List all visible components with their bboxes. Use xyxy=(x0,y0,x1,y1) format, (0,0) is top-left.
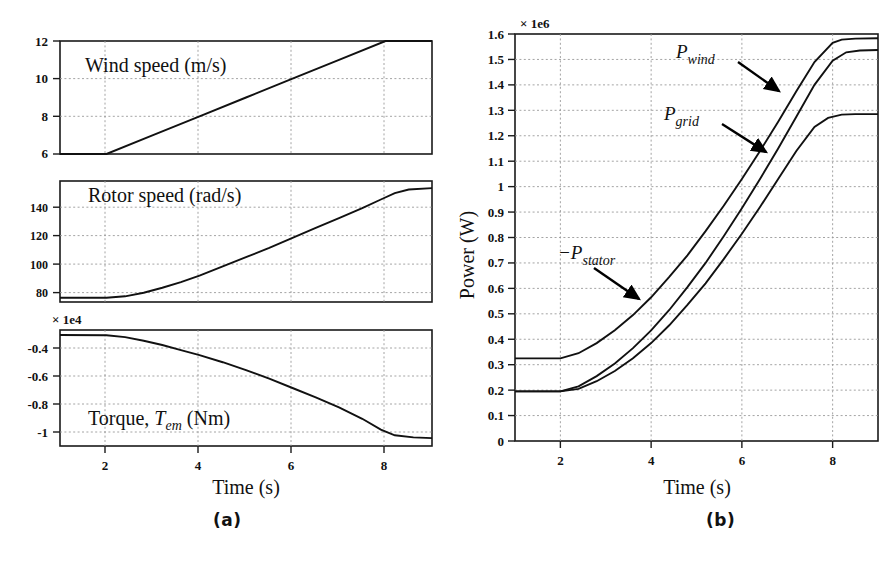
x-tick-labels: 2468 xyxy=(557,453,836,468)
subplot-wind-speed: 6 8 10 12 Wind speed (m/s) xyxy=(35,34,432,162)
subplot-rotor-speed: 80 100 120 140 Rotor speed (rad/s) xyxy=(30,181,432,302)
ytick-label: -0.4 xyxy=(27,341,48,356)
ytick-label: 1.2 xyxy=(488,128,504,143)
x-axis-title-panel-b: Time (s) xyxy=(663,476,731,499)
p-stator-subscript: stator xyxy=(582,253,615,268)
ytick-label: 0.2 xyxy=(488,383,504,398)
ytick-label: 0.5 xyxy=(488,306,505,321)
y-tick-labels: 00.10.20.30.40.50.60.70.80.911.11.21.31.… xyxy=(488,27,505,449)
inplot-label-rotor-speed: Rotor speed (rad/s) xyxy=(88,184,241,207)
p-grid-symbol: P xyxy=(663,103,676,124)
ytick-label: 0.9 xyxy=(488,205,505,220)
panel-b: × 1e6 00.10.20.30.40.50.60.70.80.911.11.… xyxy=(456,16,878,499)
xtick-label: 2 xyxy=(102,458,109,473)
exponent-label-power: × 1e6 xyxy=(520,16,550,31)
figure-canvas: 6 8 10 12 Wind speed (m/s) xyxy=(0,0,896,563)
xtick-label: 4 xyxy=(195,458,202,473)
xtick-label: 6 xyxy=(739,453,746,468)
p-stator-sign: − xyxy=(558,242,571,263)
panel-a: 6 8 10 12 Wind speed (m/s) xyxy=(27,34,432,500)
torque-label-post: (Nm) xyxy=(182,407,230,430)
p-grid-subscript: grid xyxy=(676,114,700,129)
y-ticks xyxy=(53,348,60,432)
x-axis-title-panel-a: Time (s) xyxy=(212,476,280,499)
ytick-label: 1.3 xyxy=(488,103,505,118)
ytick-label: 0.6 xyxy=(488,281,505,296)
xtick-label: 2 xyxy=(557,453,564,468)
torque-label-pre: Torque, xyxy=(88,407,154,430)
p-wind-subscript: wind xyxy=(688,52,716,67)
x-ticks xyxy=(560,441,832,448)
ytick-label: -1 xyxy=(37,425,48,440)
ytick-label: 8 xyxy=(42,109,49,124)
p-wind-symbol: P xyxy=(675,41,688,62)
torque-label-subscript: em xyxy=(165,418,181,433)
xtick-label: 8 xyxy=(829,453,836,468)
caption-panel-a: (a) xyxy=(213,510,242,530)
y-ticks xyxy=(53,41,60,154)
inplot-label-wind-speed: Wind speed (m/s) xyxy=(85,54,226,77)
xtick-label: 8 xyxy=(381,458,388,473)
y-axis-title-panel-b: Power (W) xyxy=(456,211,479,299)
ytick-label: 1.1 xyxy=(488,154,504,169)
ytick-label: 80 xyxy=(36,286,48,300)
xtick-label: 4 xyxy=(648,453,655,468)
exponent-label-torque: × 1e4 xyxy=(52,312,82,327)
ytick-label: 1.6 xyxy=(488,27,505,42)
ytick-label: 140 xyxy=(30,201,48,215)
ytick-label: 0 xyxy=(498,434,505,449)
ytick-label: 0.4 xyxy=(488,332,505,347)
subplot-torque: × 1e4 -1 -0.8 -0.6 -0.4 xyxy=(27,312,432,499)
xtick-label: 6 xyxy=(288,458,295,473)
ytick-label: 10 xyxy=(35,71,48,86)
ytick-label: 0.7 xyxy=(488,255,505,270)
ytick-label: 0.1 xyxy=(488,408,504,423)
ytick-label: 1.5 xyxy=(488,52,505,67)
ytick-label: -0.6 xyxy=(27,369,48,384)
y-ticks xyxy=(508,34,515,441)
ytick-label: 120 xyxy=(30,229,48,243)
ytick-label: 12 xyxy=(35,34,48,49)
caption-panel-b: (b) xyxy=(706,510,735,530)
ytick-label: 100 xyxy=(30,258,48,272)
ytick-label: -0.8 xyxy=(27,397,48,412)
ytick-label: 6 xyxy=(42,146,49,161)
x-ticks xyxy=(105,446,384,453)
ytick-label: 0.3 xyxy=(488,357,505,372)
ytick-label: 0.8 xyxy=(488,230,505,245)
ytick-label: 1.4 xyxy=(488,77,505,92)
p-stator-symbol: P xyxy=(570,242,583,263)
ytick-label: 1 xyxy=(498,179,505,194)
y-ticks xyxy=(53,207,60,292)
